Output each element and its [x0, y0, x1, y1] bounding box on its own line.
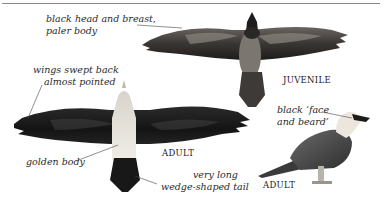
- face-note-line2: and beard’: [277, 116, 329, 127]
- wings-note-line2: almost pointed: [44, 76, 116, 87]
- juvenile-note-line1: black head and breast,: [46, 13, 156, 24]
- leader-juvenile-head: [137, 25, 182, 28]
- juvenile-caption: JUVENILE: [283, 75, 331, 85]
- wings-note-line1: wings swept back: [33, 64, 119, 75]
- adult-flight-caption: ADULT: [162, 148, 194, 158]
- juvenile-bird-flight: [142, 12, 348, 107]
- tail-note-line1: very long: [193, 169, 238, 180]
- juvenile-note-line2: paler body: [46, 25, 97, 36]
- tail-note-line2: wedge-shaped tail: [161, 181, 249, 192]
- adult-perched-caption: ADULT: [263, 180, 295, 190]
- golden-body-note: golden body: [26, 156, 85, 167]
- face-note-line1: black ‘face: [277, 104, 329, 115]
